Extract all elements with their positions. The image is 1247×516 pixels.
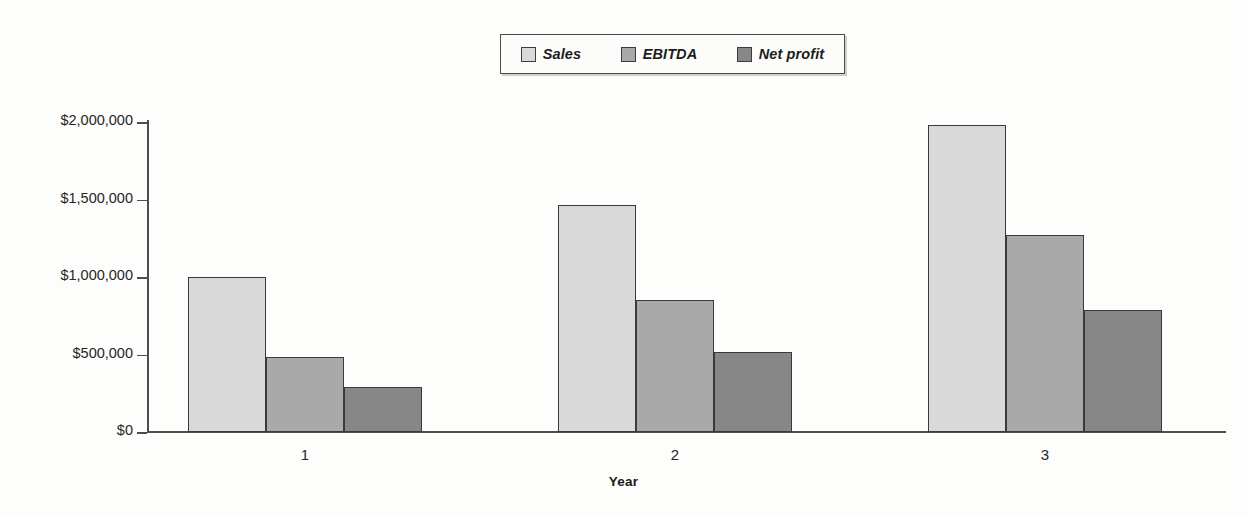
chart-legend: Sales EBITDA Net profit [500,34,845,74]
legend-swatch-net-profit [737,47,752,62]
y-tick-mark [137,122,147,124]
legend-item-sales: Sales [521,46,581,62]
bar [1084,310,1162,432]
y-tick-mark [137,277,147,279]
legend-label-sales: Sales [543,46,581,62]
x-category-label: 1 [301,446,309,463]
bar [266,357,344,432]
bar [636,300,714,432]
x-axis-title: Year [0,474,1247,489]
legend-swatch-ebitda [621,47,636,62]
bar [714,352,792,432]
x-category-label: 3 [1041,446,1049,463]
y-tick-label: $2,000,000 [60,112,133,128]
bar [188,277,266,432]
bar [928,125,1006,432]
y-tick-mark [137,355,147,357]
legend-swatch-sales [521,47,536,62]
y-tick-label: $0 [117,422,133,438]
legend-label-net-profit: Net profit [759,46,824,62]
y-tick-label: $1,000,000 [60,267,133,283]
y-tick-mark [137,200,147,202]
bar [1006,235,1084,432]
y-tick-mark [137,432,147,434]
y-tick-label: $1,500,000 [60,190,133,206]
x-category-label: 2 [671,446,679,463]
legend-item-net-profit: Net profit [737,46,824,62]
plot-area [147,122,1227,432]
bar-chart: Sales EBITDA Net profit $0$500,000$1,000… [0,0,1247,516]
legend-label-ebitda: EBITDA [643,46,698,62]
bar [344,387,422,432]
y-tick-label: $500,000 [73,345,133,361]
legend-item-ebitda: EBITDA [621,46,698,62]
bar [558,205,636,432]
